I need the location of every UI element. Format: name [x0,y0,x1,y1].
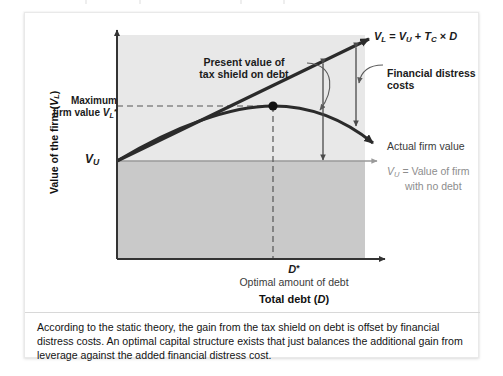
dark-shaded-region [117,161,365,259]
optimal-debt-subtitle: Optimal amount of debt [204,276,384,288]
optimal-point-marker [268,101,277,110]
figure-root: Value of the firm (VL) Maximumfirm value… [0,0,503,376]
x-axis-title: Total debt (D) [204,293,384,306]
caption-divider [25,312,480,313]
actual-firm-value-annotation: Actual firm value [387,140,465,152]
pv-tax-shield-annotation: Present value oftax shield on debt [184,56,304,81]
vu-axis-label: VU [85,152,99,167]
dstar-axis-marker: D* [271,263,317,276]
figure-card: Value of the firm (VL) Maximumfirm value… [24,12,479,358]
chart-plot-area: Value of the firm (VL) Maximumfirm value… [25,13,480,313]
y-axis-title: Value of the firm (VL) [48,52,63,232]
cropped-text-artifact [85,0,87,4]
max-firm-value-label: Maximumfirm value VL* [33,95,117,120]
financial-distress-annotation: Financial distresscosts [387,67,481,92]
vu-legend-annotation: VU = Value of firmwith no debt [387,165,483,192]
cropped-text-artifact [283,0,285,4]
cropped-text-artifact [240,0,242,4]
figure-caption: According to the static theory, the gain… [37,320,469,363]
vl-equation-label: VL = VU + TC × D [374,30,457,44]
cropped-text-artifact [139,0,141,4]
